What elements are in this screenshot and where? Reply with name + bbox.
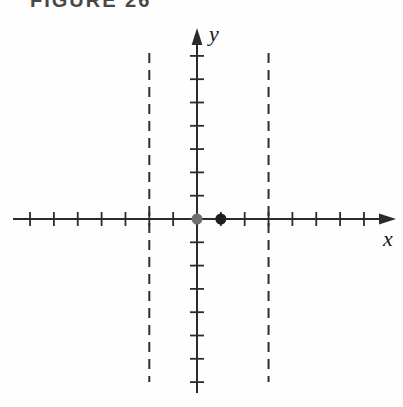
x-axis-arrowhead [379,214,396,225]
figure-panel: FIGURE 26 yx [0,0,403,407]
y-axis-label: y [207,21,219,46]
x-axis-label: x [382,226,393,251]
data-point [215,214,226,225]
y-axis-arrowhead [192,28,203,45]
data-point [192,214,203,225]
coordinate-plane: yx [0,0,403,407]
